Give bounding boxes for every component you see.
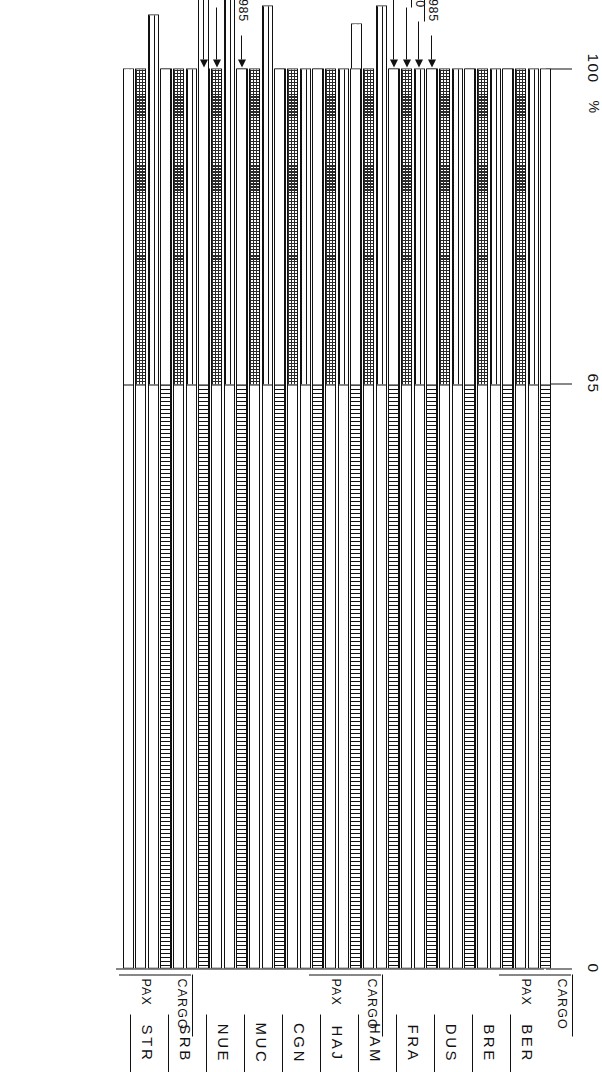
bar-srb-pax-1980 [198, 0, 209, 968]
bar-segment-left [491, 69, 500, 384]
bar-str-cargo-1980 [135, 68, 146, 968]
bar-dus-pax-1980 [464, 68, 475, 968]
callout-leader [418, 21, 419, 59]
bar-segment-left [161, 69, 170, 384]
bar-str-cargo-1985 [123, 68, 134, 968]
bar-segment-right [427, 384, 436, 967]
bar-segment-right [212, 384, 221, 967]
bar-nue-cargo-1980 [211, 68, 222, 968]
bar-segment-right [516, 384, 525, 967]
bar-segment-left [402, 69, 411, 384]
bar-segment-right [136, 384, 145, 967]
callout-arrow [428, 59, 436, 67]
category-underline [244, 1014, 245, 1072]
bar-segment-left [415, 69, 424, 384]
bar-segment-right [149, 384, 158, 967]
bar-segment-right [288, 384, 297, 967]
series-bracket [382, 974, 383, 1036]
year-callout-1985: 1985 [236, 0, 250, 21]
bar-segment-left [529, 69, 538, 384]
bar-ham-pax-1985 [376, 5, 387, 968]
category-label-haj: HAJ [329, 1025, 346, 1061]
bar-haj-pax-1980 [350, 68, 361, 968]
bar-segment-left [250, 69, 259, 384]
category-label-nue: NUE [215, 1023, 232, 1062]
bar-segment-right [529, 384, 538, 967]
category-label-str: STR [139, 1024, 156, 1062]
bar-segment-right [541, 384, 550, 967]
bar-segment-left [275, 69, 284, 384]
callout-arrow [200, 59, 208, 67]
axis-tick-label-0: 0 [584, 963, 602, 973]
bar-segment-left [377, 6, 386, 384]
year-callout-1980: 1980 [413, 0, 427, 7]
bar-segment-left [288, 69, 297, 384]
series-label-pax: PAX [519, 978, 533, 1005]
bar-fra-pax-1985 [414, 68, 425, 968]
bar-segment-right [124, 384, 133, 967]
bar-segment-right [313, 384, 322, 967]
category-label-muc: MUC [253, 1022, 270, 1064]
bar-segment-left [389, 69, 398, 384]
category-label-dus: DUS [443, 1023, 460, 1062]
bar-segment-left [149, 15, 158, 384]
bar-dus-cargo-1980 [439, 68, 450, 968]
category-underline [510, 1014, 511, 1072]
bar-ber-cargo-1980 [515, 68, 526, 968]
category-underline [168, 1014, 169, 1072]
bar-cgn-pax-1985 [300, 68, 311, 968]
bar-str-pax-1985 [148, 14, 159, 968]
bar-segment-left [541, 69, 550, 384]
series-bracket [192, 974, 193, 1036]
callout-leader [216, 7, 217, 59]
series-label-cargo: CARGO [365, 978, 379, 1029]
category-label-ber: BER [519, 1024, 536, 1063]
series-label-cargo: CARGO [175, 978, 189, 1029]
callout-leader [431, 35, 432, 59]
series-divider [309, 974, 382, 975]
bar-str-pax-1980 [160, 68, 171, 968]
bar-segment-right [161, 384, 170, 967]
callout-leader [406, 7, 407, 59]
bar-srb-cargo-1980 [173, 68, 184, 968]
bar-segment-left [326, 69, 335, 384]
bar-segment-left [313, 69, 322, 384]
plot-area: 100%650BERBREDUSFRAHAMHAJCGNMUCNUESRBSTR… [126, 68, 544, 968]
year-callout-1985: 1985 [426, 0, 440, 21]
callout-leader [203, 0, 204, 59]
axis-tick-label-65: 65 [584, 373, 602, 393]
bar-muc-pax-1980 [274, 68, 285, 968]
bar-ham-cargo-1980 [363, 68, 374, 968]
bar-segment-right [250, 384, 259, 967]
category-label-cgn: CGN [291, 1022, 308, 1063]
bar-segment-right [478, 384, 487, 967]
category-underline [396, 1014, 397, 1072]
bar-segment-right [275, 384, 284, 967]
callout-arrow [213, 59, 221, 67]
category-underline [472, 1014, 473, 1072]
bar-segment-left [136, 69, 145, 384]
bar-bre-pax-1985 [490, 68, 501, 968]
bar-haj-cargo-1980 [325, 68, 336, 968]
bar-nue-pax-1985 [224, 0, 235, 968]
bar-segment-left [263, 6, 272, 384]
category-underline [320, 1014, 321, 1072]
bar-haj-pax-1985 [338, 68, 349, 968]
bar-segment-right [326, 384, 335, 967]
bar-segment-left [427, 69, 436, 384]
category-underline [130, 1014, 131, 1072]
bar-cgn-pax-1980 [312, 68, 323, 968]
bar-segment-left [124, 69, 133, 384]
bar-segment-right [440, 384, 449, 967]
bar-segment-left [339, 69, 348, 384]
category-underline [358, 1014, 359, 1072]
bar-segment-right [491, 384, 500, 967]
bar-segment-left [237, 69, 246, 384]
callout-arrow [403, 59, 411, 67]
callout-leader [393, 0, 394, 59]
bar-bre-pax-1980 [502, 68, 513, 968]
bar-segment-left [465, 69, 474, 384]
bar-segment-left [516, 69, 525, 384]
bar-ber-pax-1985 [528, 68, 539, 968]
bar-segment-right [364, 384, 373, 967]
